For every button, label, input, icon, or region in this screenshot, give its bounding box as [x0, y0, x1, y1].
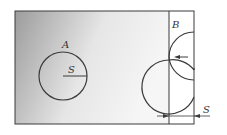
label-radius-s: S [68, 64, 75, 75]
dim-arrow-right-icon [194, 114, 200, 118]
arrow-head-icon [174, 55, 180, 59]
upper-arc [169, 32, 194, 80]
shaded-region [15, 11, 169, 124]
diagram-canvas: A S B S [0, 0, 227, 135]
label-b: B [171, 19, 179, 30]
label-offset-s: S [203, 104, 210, 115]
label-a: A [61, 39, 69, 50]
